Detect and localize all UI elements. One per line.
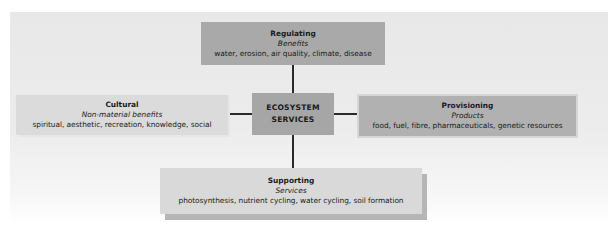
supporting-title: Supporting bbox=[268, 176, 315, 186]
provisioning-node: Provisioning Products food, fuel, fibre,… bbox=[359, 96, 576, 136]
supporting-node: Supporting Services photosynthesis, nutr… bbox=[160, 168, 422, 214]
provisioning-subtitle: Products bbox=[451, 111, 483, 121]
cultural-subtitle: Non-material benefits bbox=[82, 110, 163, 120]
connector-bottom bbox=[292, 135, 294, 168]
provisioning-details: food, fuel, fibre, pharmaceuticals, gene… bbox=[372, 121, 562, 131]
regulating-subtitle: Benefits bbox=[278, 39, 308, 49]
cultural-node: Cultural Non-material benefits spiritual… bbox=[16, 95, 228, 135]
cultural-title: Cultural bbox=[105, 100, 138, 110]
connector-top bbox=[292, 65, 294, 93]
ecosystem-services-node: ECOSYSTEM SERVICES bbox=[252, 93, 334, 135]
center-label-line2: SERVICES bbox=[271, 114, 314, 126]
connector-right bbox=[334, 113, 359, 115]
supporting-subtitle: Services bbox=[275, 186, 306, 196]
cultural-details: spiritual, aesthetic, recreation, knowle… bbox=[33, 120, 212, 130]
provisioning-title: Provisioning bbox=[442, 101, 494, 111]
center-label-line1: ECOSYSTEM bbox=[266, 102, 319, 114]
regulating-node: Regulating Benefits water, erosion, air … bbox=[201, 22, 385, 65]
connector-left bbox=[228, 113, 252, 115]
regulating-title: Regulating bbox=[270, 29, 315, 39]
regulating-details: water, erosion, air quality, climate, di… bbox=[214, 49, 371, 59]
supporting-details: photosynthesis, nutrient cycling, water … bbox=[178, 196, 403, 206]
